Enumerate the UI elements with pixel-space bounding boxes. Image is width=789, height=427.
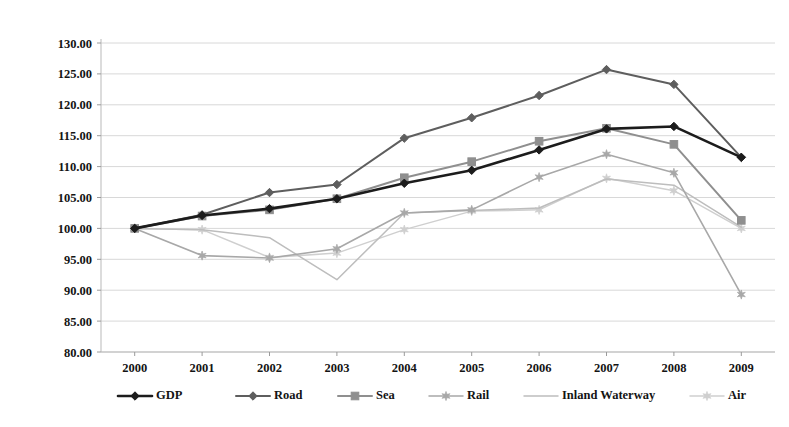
legend-label: Inland Waterway: [562, 388, 656, 402]
legend-item-rail[interactable]: Rail: [429, 388, 490, 402]
series-air: [131, 174, 746, 262]
y-axis-tick-label: 95.00: [64, 253, 92, 267]
x-axis-tick-label: 2006: [527, 361, 552, 375]
y-axis-tick-label: 100.00: [58, 222, 92, 236]
series-line: [135, 178, 742, 257]
y-axis-tick-label: 80.00: [64, 346, 92, 360]
data-point-marker: [737, 290, 745, 299]
data-point-marker: [602, 65, 610, 73]
x-axis-tick-label: 2008: [661, 361, 686, 375]
y-axis-tick-label: 85.00: [64, 315, 92, 329]
legend-item-road[interactable]: Road: [236, 388, 303, 402]
data-point-marker: [535, 146, 543, 154]
data-point-marker: [468, 158, 476, 166]
series-sea: [131, 124, 745, 232]
y-axis-tick-label: 130.00: [58, 37, 92, 51]
legend-item-inland-waterway[interactable]: Inland Waterway: [524, 388, 656, 402]
x-axis-tick-label: 2002: [257, 361, 282, 375]
line-chart: 130.00125.00120.00115.00110.00105.00100.…: [0, 0, 789, 427]
series-line: [135, 154, 742, 294]
y-axis-tick-labels: 130.00125.00120.00115.00110.00105.00100.…: [58, 37, 92, 360]
y-axis-tick-label: 120.00: [58, 98, 92, 112]
legend-item-gdp[interactable]: GDP: [118, 388, 183, 402]
x-axis-tick-label: 2003: [324, 361, 349, 375]
chart-gridlines: [101, 43, 775, 352]
data-point-marker: [351, 392, 359, 400]
series-line: [135, 126, 742, 228]
data-point-marker: [670, 122, 678, 130]
chart-legend: GDPRoadSeaRailInland WaterwayAir: [118, 388, 747, 402]
y-axis-tick-label: 105.00: [58, 191, 92, 205]
series-inland-waterway: [135, 179, 742, 280]
data-point-marker: [535, 137, 543, 145]
legend-item-sea[interactable]: Sea: [338, 388, 396, 402]
x-axis-tick-label: 2009: [729, 361, 754, 375]
data-point-marker: [535, 91, 543, 99]
legend-label: GDP: [156, 388, 183, 402]
y-axis-tick-label: 125.00: [58, 67, 92, 81]
series-rail: [131, 150, 746, 299]
data-point-marker: [249, 392, 257, 400]
chart-series-layer: [131, 65, 746, 299]
legend-label: Air: [728, 388, 747, 402]
x-axis-tick-label: 2004: [392, 361, 418, 375]
y-axis-tick-label: 90.00: [64, 284, 92, 298]
legend-label: Road: [274, 388, 303, 402]
data-point-marker: [738, 217, 746, 225]
series-line: [135, 179, 742, 280]
legend-label: Rail: [467, 388, 490, 402]
data-point-marker: [131, 392, 139, 400]
x-axis-tick-label: 2005: [459, 361, 484, 375]
data-point-marker: [468, 166, 476, 174]
data-point-marker: [265, 188, 273, 196]
y-axis-tick-label: 110.00: [58, 160, 92, 174]
x-axis-tick-label: 2001: [190, 361, 215, 375]
x-axis-tick-label: 2007: [594, 361, 619, 375]
x-axis-tick-label: 2000: [122, 361, 147, 375]
series-line: [135, 70, 742, 229]
x-axis-tick-labels: 2000200120022003200420052006200720082009: [122, 361, 754, 375]
data-point-marker: [670, 141, 678, 149]
y-axis-tick-label: 115.00: [58, 129, 92, 143]
legend-item-air[interactable]: Air: [690, 388, 747, 402]
series-road: [131, 65, 746, 232]
data-point-marker: [468, 114, 476, 122]
data-point-marker: [535, 173, 543, 182]
legend-label: Sea: [376, 388, 396, 402]
